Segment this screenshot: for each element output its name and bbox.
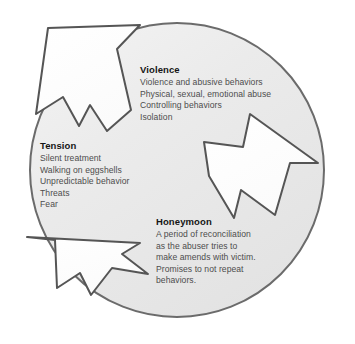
stage-line: Controlling behaviors: [140, 100, 271, 112]
stage-line: Promises to not repeat: [156, 264, 256, 276]
stage-block-tension: Tension Silent treatment Walking on eggs…: [40, 140, 129, 211]
stage-line: make amends with victim.: [156, 252, 256, 264]
stage-line: A period of reconciliation: [156, 229, 256, 241]
stage-heading-honeymoon: Honeymoon: [156, 216, 256, 229]
stage-block-violence: Violence Violence and abusive behaviors …: [140, 64, 271, 123]
stage-block-honeymoon: Honeymoon A period of reconciliation as …: [156, 216, 256, 287]
stage-heading-tension: Tension: [40, 140, 129, 153]
stage-line: Violence and abusive behaviors: [140, 77, 271, 89]
stage-line: Unpredictable behavior: [40, 176, 129, 188]
stage-line: Silent treatment: [40, 153, 129, 165]
stage-line: Isolation: [140, 112, 271, 124]
stage-line: as the abuser tries to: [156, 241, 256, 253]
stage-line: behaviors.: [156, 275, 256, 287]
cycle-of-violence-diagram: Violence Violence and abusive behaviors …: [0, 0, 355, 344]
stage-line: Physical, sexual, emotional abuse: [140, 89, 271, 101]
stage-line: Threats: [40, 188, 129, 200]
stage-line: Walking on eggshells: [40, 165, 129, 177]
stage-heading-violence: Violence: [140, 64, 271, 77]
stage-line: Fear: [40, 199, 129, 211]
